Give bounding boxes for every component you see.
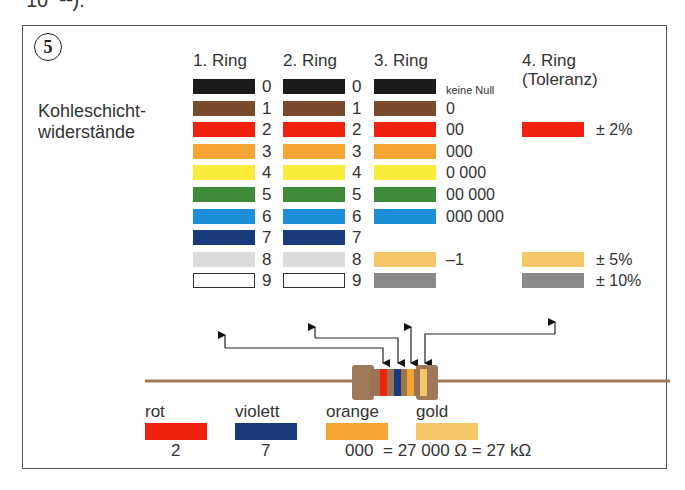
example-band-value: 7 bbox=[261, 441, 270, 461]
example-result: = 27 000 Ω = 27 kΩ bbox=[383, 441, 531, 461]
resistor-illustration bbox=[145, 365, 670, 400]
example-band-name: rot bbox=[145, 402, 165, 422]
example-band-value: 2 bbox=[171, 441, 180, 461]
example-band-swatch bbox=[235, 423, 297, 440]
example-band-name: gold bbox=[416, 402, 448, 422]
example-band-name: orange bbox=[326, 402, 379, 422]
example-value-3: 000 bbox=[345, 441, 373, 461]
example-band-swatch bbox=[145, 423, 207, 440]
example-band-name: violett bbox=[235, 402, 279, 422]
example-band-swatch bbox=[416, 423, 478, 440]
example-band-swatch bbox=[326, 423, 388, 440]
